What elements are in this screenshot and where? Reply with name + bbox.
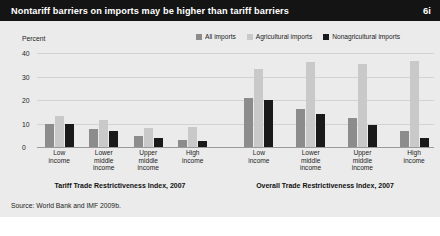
x-axis-category-label: Lowermiddleincome [285, 149, 337, 179]
y-axis-label: Percent [22, 35, 45, 42]
bar [45, 124, 54, 148]
legend-swatch-agricultural-imports [247, 34, 253, 40]
x-axis-categories-left: LowincomeLowermiddleincomeUppermiddleinc… [37, 149, 215, 179]
legend-swatch-nonagricultural-imports [323, 34, 329, 40]
legend-label: Nonagricultural imports [332, 33, 400, 40]
figure-title-bar: Nontariff barriers on imports may be hig… [0, 0, 440, 21]
bar [348, 118, 357, 147]
bar [188, 127, 197, 147]
bar [420, 138, 429, 147]
bar-group [171, 53, 216, 147]
bar [410, 61, 419, 147]
figure-container: Nontariff barriers on imports may be hig… [0, 0, 440, 236]
figure-number: 6i [423, 5, 431, 16]
bar-group [37, 53, 82, 147]
bar [55, 116, 64, 147]
bar [358, 64, 367, 147]
source-note: Source: World Bank and IMF 2009b. [11, 202, 121, 209]
bar [306, 62, 315, 147]
bar-group [82, 53, 127, 147]
bar [178, 140, 187, 147]
legend-item: Nonagricultural imports [323, 33, 400, 40]
bar-group [233, 53, 285, 147]
y-axis-tick-label: 20 [22, 97, 36, 104]
bar-group [126, 53, 171, 147]
bar [109, 131, 118, 147]
legend-label: All imports [205, 33, 236, 40]
chart-legend: All importsAgricultural importsNonagricu… [196, 33, 400, 40]
footer-background [0, 217, 440, 236]
bar [316, 114, 325, 147]
bar [244, 98, 253, 147]
bar [296, 109, 305, 147]
chart-title-right: Overall Trade Restrictiveness Index, 200… [220, 182, 430, 189]
bar-group [285, 53, 337, 147]
bar-group [337, 53, 389, 147]
legend-label: Agricultural imports [256, 33, 312, 40]
x-axis-category-label: Lowincome [37, 149, 82, 179]
legend-item: Agricultural imports [247, 33, 312, 40]
legend-swatch-all-imports [196, 34, 202, 40]
bar [65, 124, 74, 148]
bar [254, 69, 263, 147]
bar [264, 100, 273, 147]
x-axis-category-label: Highincome [171, 149, 216, 179]
bar [400, 131, 409, 147]
chart-panel-overall [233, 53, 440, 147]
x-axis-baseline [37, 147, 434, 148]
bar [99, 120, 108, 147]
bar [154, 138, 163, 147]
y-axis-tick-label: 40 [22, 50, 36, 57]
bar-group [388, 53, 440, 147]
x-axis-categories-right: LowincomeLowermiddleincomeUppermiddleinc… [233, 149, 440, 179]
y-axis-tick-label: 0 [22, 144, 36, 151]
legend-item: All imports [196, 33, 236, 40]
chart-panel-tariff [37, 53, 215, 147]
y-axis-tick-label: 30 [22, 73, 36, 80]
plot-area [37, 53, 434, 148]
x-axis-category-label: Uppermiddleincome [126, 149, 171, 179]
x-axis-category-label: Highincome [388, 149, 440, 179]
chart-title-left: Tariff Trade Restrictiveness Index, 2007 [20, 182, 220, 189]
bar [368, 125, 377, 147]
page-title: Nontariff barriers on imports may be hig… [11, 6, 289, 16]
x-axis-category-label: Lowincome [233, 149, 285, 179]
bar [134, 136, 143, 147]
bar [198, 141, 207, 147]
bar [144, 128, 153, 147]
x-axis-category-label: Uppermiddleincome [337, 149, 389, 179]
y-axis-tick-label: 10 [22, 120, 36, 127]
x-axis-category-label: Lowermiddleincome [82, 149, 127, 179]
bar [89, 129, 98, 147]
